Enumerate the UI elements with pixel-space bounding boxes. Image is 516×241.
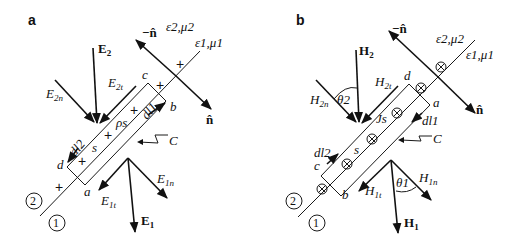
- contour-pointer: [139, 135, 168, 143]
- theta1-label: θ1: [396, 175, 409, 190]
- e1-arrow-icon: [128, 158, 135, 232]
- normal-up-label: −n̂: [392, 21, 407, 36]
- dl1-label: dl1: [422, 113, 439, 128]
- e2n-label: E2n: [45, 86, 63, 103]
- corner-d: d: [57, 157, 64, 172]
- boundary-conditions-figure: a −n̂ n̂ ε2,μ2 ε1,μ1 + + + + + + c b a d…: [0, 0, 516, 241]
- into-page-icon: [436, 62, 446, 72]
- region-2-label: 2: [30, 194, 36, 208]
- h1t-arrow-icon: [359, 160, 391, 191]
- into-page-icon: [416, 83, 426, 93]
- interface-line: [298, 40, 475, 217]
- e2-arrow-icon: [93, 48, 97, 123]
- corner-b: b: [342, 187, 349, 202]
- normal-up-arrow-icon: [389, 31, 437, 76]
- normal-down-label: n̂: [476, 102, 484, 117]
- panel-b: b −n̂ n̂ ε2,μ2 ε1,μ1 d a b c dl1 dl2: [286, 12, 494, 233]
- h1-label: H1: [404, 215, 419, 232]
- charge-marker: +: [55, 179, 63, 195]
- charge-marker: +: [130, 102, 138, 118]
- e1t-label: E1t: [100, 193, 116, 210]
- charge-marker: +: [176, 56, 184, 72]
- surface-label: s: [354, 142, 359, 157]
- corner-c: c: [142, 67, 148, 82]
- theta2-label: θ2: [337, 92, 350, 107]
- dl1-label: dl1: [138, 100, 160, 122]
- region-1-label: 1: [53, 216, 59, 230]
- region-upper-label: ε2,μ2: [436, 31, 464, 46]
- h2-label: H2: [359, 43, 374, 60]
- e1n-label: E1n: [156, 171, 174, 188]
- region-lower-label: ε1,μ1: [195, 35, 223, 50]
- corner-d: d: [404, 68, 411, 83]
- dl2-label: dl2: [314, 145, 331, 160]
- e1-label: E1: [141, 213, 155, 230]
- contour-label: C: [169, 133, 178, 148]
- normal-down-arrow-icon: [437, 76, 475, 113]
- e2-label: E2: [98, 41, 112, 58]
- into-page-icon: [392, 108, 402, 118]
- panel-a: a −n̂ n̂ ε2,μ2 ε1,μ1 + + + + + + c b a d…: [26, 12, 223, 232]
- normal-down-arrow-icon: [176, 76, 211, 109]
- surface-label: s: [92, 140, 97, 155]
- panel-b-label: b: [296, 12, 305, 28]
- charge-marker: +: [156, 77, 164, 93]
- corner-b: b: [170, 99, 177, 114]
- h2t-label: H2t: [374, 74, 392, 91]
- h2-arrow-icon: [356, 50, 359, 122]
- e2t-label: E2t: [107, 75, 123, 92]
- h1-arrow-icon: [391, 160, 398, 233]
- e1t-arrow-icon: [99, 158, 128, 190]
- region-upper-label: ε2,μ2: [166, 19, 194, 34]
- contour-label: C: [433, 131, 442, 146]
- region-2-label: 2: [290, 194, 296, 208]
- corner-a: a: [84, 184, 91, 199]
- corner-c: c: [314, 158, 320, 173]
- h1t-label: H1t: [364, 183, 382, 200]
- corner-a: a: [433, 95, 440, 110]
- contour-pointer-arrow-icon: [398, 137, 404, 143]
- surface-charge-label: ρs: [115, 115, 127, 130]
- surface-current-label: Js: [376, 111, 387, 126]
- h1n-label: H1n: [418, 170, 438, 187]
- contour-pointer-arrow-icon: [137, 139, 143, 145]
- panel-a-label: a: [28, 12, 36, 28]
- contour-pointer: [401, 136, 432, 141]
- normal-up-label: −n̂: [142, 25, 157, 40]
- normal-down-label: n̂: [206, 112, 214, 127]
- charge-marker: +: [104, 127, 112, 143]
- h2n-label: H2n: [309, 92, 329, 109]
- dl1-arrow-icon: [412, 113, 422, 122]
- region-1-label: 1: [313, 216, 319, 230]
- region-lower-label: ε1,μ1: [466, 47, 494, 62]
